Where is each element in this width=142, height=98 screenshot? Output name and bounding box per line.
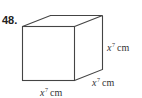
cube-top-face — [23, 16, 103, 27]
width-label: x7cm — [40, 87, 62, 98]
cube-front-face — [23, 27, 75, 81]
problem-figure: 48. x7cm x7cm x7cm — [0, 0, 142, 98]
height-label: x7cm — [107, 42, 129, 53]
depth-label: x7cm — [92, 77, 114, 88]
